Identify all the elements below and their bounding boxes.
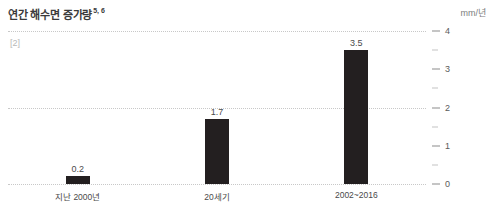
bar-value-label: 3.5 (350, 38, 363, 48)
sea-level-rise-bar-chart: 연간 해수면 증가량5, 6 [2] mm/년 0.21.73.5 01234 … (0, 0, 494, 215)
tick-mark (432, 145, 440, 146)
tick-mark (432, 31, 440, 32)
bar-group: 3.5 (344, 50, 368, 184)
y-axis-unit-label: mm/년 (461, 6, 487, 19)
tick-mark (432, 164, 438, 165)
tick-mark (432, 50, 438, 51)
bar-group: 0.2 (66, 176, 90, 184)
x-axis-category-label: 지난 2000년 (55, 190, 100, 202)
bar-group: 1.7 (205, 119, 229, 184)
bars-layer: 0.21.73.5 (8, 31, 426, 184)
x-axis-category-label: 20세기 (204, 190, 229, 202)
y-axis-tick-label: 2 (445, 103, 450, 112)
bar-value-label: 0.2 (71, 164, 84, 174)
bar (66, 176, 90, 184)
y-axis-right: 01234 (432, 31, 490, 184)
y-axis-tick-label: 0 (445, 180, 450, 189)
chart-title: 연간 해수면 증가량5, 6 (8, 6, 104, 22)
y-axis-tick-label: 3 (445, 65, 450, 74)
tick-mark (432, 88, 438, 89)
bar-value-label: 1.7 (211, 107, 224, 117)
bar (344, 50, 368, 184)
plot-area: 0.21.73.5 (8, 31, 426, 184)
chart-title-footnote-superscript: 5, 6 (93, 7, 105, 14)
y-axis-tick-label: 4 (445, 27, 450, 36)
tick-mark (432, 184, 440, 185)
tick-mark (432, 107, 440, 108)
gridline-0 (8, 184, 426, 185)
tick-mark (432, 69, 440, 70)
x-axis-category-label: 2002~2016 (335, 190, 378, 200)
chart-title-text: 연간 해수면 증가량 (8, 9, 92, 21)
x-axis-category-labels: 지난 2000년20세기2002~2016 (8, 190, 426, 210)
bar (205, 119, 229, 184)
y-axis-tick-label: 1 (445, 141, 450, 150)
tick-mark (432, 126, 438, 127)
